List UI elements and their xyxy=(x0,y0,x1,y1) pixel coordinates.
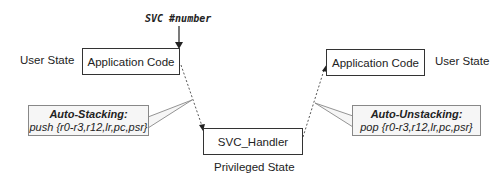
right-application-code-label: Application Code xyxy=(332,57,419,69)
svc-instruction-label: SVC #number xyxy=(145,13,211,24)
auto-unstacking-callout: Auto-Unstacking: pop {r0-r3,r12,lr,pc,ps… xyxy=(352,105,481,136)
right-user-state-label: User State xyxy=(435,55,489,67)
transition-to-handler xyxy=(181,65,202,126)
auto-unstacking-body: pop {r0-r3,r12,lr,pc,psr} xyxy=(360,121,473,133)
privileged-state-label: Privileged State xyxy=(214,161,295,173)
left-application-code-label: Application Code xyxy=(88,56,175,68)
auto-stacking-callout: Auto-Stacking: push {r0-r3,r12,lr,pc,psr… xyxy=(28,105,149,136)
stacking-pointer xyxy=(148,100,192,128)
svc-handler-label: SVC_Handler xyxy=(218,136,288,148)
transition-to-user xyxy=(303,70,324,137)
left-user-state-label: User State xyxy=(20,54,74,66)
auto-unstacking-title: Auto-Unstacking: xyxy=(353,108,480,121)
right-application-code-box: Application Code xyxy=(326,49,425,76)
unstacking-pointer xyxy=(315,103,353,127)
svc-handler-box: SVC_Handler xyxy=(203,128,303,155)
auto-stacking-body: push {r0-r3,r12,lr,pc,psr} xyxy=(29,121,147,133)
left-application-code-box: Application Code xyxy=(82,48,180,75)
auto-stacking-title: Auto-Stacking: xyxy=(29,108,148,121)
